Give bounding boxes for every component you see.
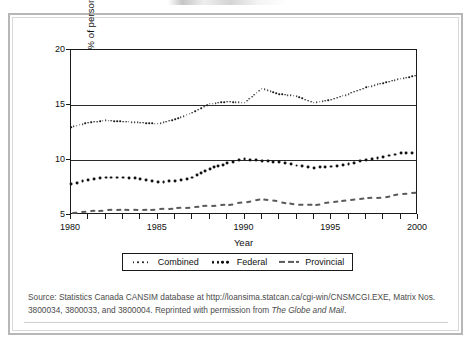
series-combined-point	[163, 121, 165, 123]
series-combined-point	[365, 87, 367, 89]
series-combined-point	[403, 77, 405, 79]
series-federal-point	[122, 176, 125, 179]
series-combined-point	[174, 119, 176, 121]
series-federal-point	[312, 166, 315, 169]
series-combined-point	[316, 101, 318, 103]
series-combined-point	[411, 76, 413, 78]
series-combined-point	[119, 121, 121, 123]
x-tick-mark-1981	[87, 214, 88, 219]
x-tick-mark-1997	[365, 214, 366, 219]
x-tick-mark-1994	[313, 214, 314, 219]
series-federal-point	[376, 156, 379, 159]
legend-entry-provincial[interactable]: Provincial	[278, 257, 344, 267]
series-combined-point	[251, 96, 253, 98]
series-combined-point	[342, 95, 344, 97]
series-combined-point	[96, 121, 98, 123]
series-federal-point	[364, 159, 367, 162]
x-tick-mark-1992	[278, 214, 279, 219]
series-provincial-segment	[116, 208, 122, 211]
series-federal-point	[213, 166, 216, 169]
series-combined-point	[160, 122, 162, 124]
series-federal-point	[185, 177, 188, 180]
source-note-end: .	[344, 305, 346, 315]
legend-entry-combined[interactable]: Combined	[131, 257, 199, 267]
series-combined-point	[209, 103, 211, 105]
x-tick-label-1990: 1990	[233, 222, 253, 232]
series-federal-point	[156, 181, 159, 184]
series-federal-point	[289, 163, 292, 166]
series-provincial-segment	[272, 200, 278, 203]
series-combined-point	[296, 95, 298, 97]
series-combined-point	[310, 101, 312, 103]
series-provincial-segment	[151, 208, 157, 211]
series-provincial-segment	[81, 211, 87, 214]
series-combined-point	[140, 122, 142, 124]
y-tick-label-5: 5	[60, 209, 65, 219]
series-combined-point	[371, 85, 373, 87]
x-tick-mark-1998	[382, 214, 383, 219]
series-federal-point	[231, 160, 234, 163]
source-note: Source: Statistics Canada CANSIM databas…	[28, 291, 448, 316]
series-federal-point	[359, 160, 362, 163]
x-tick-mark-2000	[417, 214, 418, 219]
series-federal-point	[204, 170, 207, 173]
series-federal-point	[307, 166, 310, 169]
series-combined-point	[354, 91, 356, 93]
series-federal-point	[336, 164, 339, 167]
x-tick-mark-1996	[348, 214, 349, 219]
series-federal-point	[347, 163, 350, 166]
series-provincial-segment	[307, 204, 312, 206]
series-combined-point	[148, 122, 150, 124]
series-federal-point	[301, 165, 304, 168]
series-combined-point	[223, 101, 225, 103]
series-combined-point	[409, 76, 411, 78]
series-combined-point	[145, 122, 147, 124]
series-federal-point	[324, 166, 327, 169]
series-combined-point	[261, 88, 263, 90]
series-combined-point	[197, 109, 199, 111]
series-provincial-segment	[385, 195, 391, 198]
series-combined-point	[221, 102, 223, 104]
series-provincial-segment	[211, 205, 217, 208]
series-provincial-segment	[333, 201, 339, 204]
series-federal-point	[87, 178, 90, 181]
series-provincial-segment	[125, 208, 131, 211]
series-combined-point	[203, 106, 205, 108]
cropped-title-sliver	[0, 0, 475, 9]
series-combined-point	[278, 93, 280, 95]
series-combined-point	[322, 100, 324, 102]
series-provincial-segment	[229, 203, 235, 206]
series-federal-point	[104, 176, 107, 179]
series-federal-point	[295, 164, 298, 167]
series-combined-point	[142, 122, 144, 124]
series-provincial-segment	[324, 202, 330, 205]
x-tick-label-1980: 1980	[60, 222, 80, 232]
series-provincial-segment	[402, 192, 408, 195]
series-combined-point	[218, 102, 220, 104]
series-federal-point	[249, 158, 252, 161]
series-provincial-segment	[90, 210, 96, 213]
series-combined-point	[359, 89, 361, 91]
series-combined-point	[281, 94, 283, 96]
x-tick-label-2000: 2000	[407, 222, 427, 232]
series-combined-point	[186, 114, 188, 116]
x-tick-mark-1982	[105, 214, 106, 219]
series-combined-point	[368, 86, 370, 88]
series-combined-point	[200, 108, 202, 110]
series-provincial-segment	[376, 196, 382, 199]
series-federal-point	[330, 165, 333, 168]
series-federal-point	[179, 178, 182, 181]
x-tick-mark-1990	[244, 214, 245, 219]
series-provincial-segment	[159, 208, 165, 211]
x-tick-mark-1999	[400, 214, 401, 219]
chart-region: Income tax as a % of personal income 510…	[10, 15, 465, 283]
series-combined-point	[82, 123, 84, 125]
x-tick-mark-1985	[157, 214, 158, 219]
series-combined-point	[345, 94, 347, 96]
source-note-text: Source: Statistics Canada CANSIM databas…	[28, 292, 435, 315]
legend-entry-federal[interactable]: Federal	[210, 257, 268, 267]
series-combined-point	[293, 95, 295, 97]
series-combined-point	[391, 80, 393, 82]
series-combined-point	[330, 99, 332, 101]
series-provincial-segment	[411, 192, 417, 195]
